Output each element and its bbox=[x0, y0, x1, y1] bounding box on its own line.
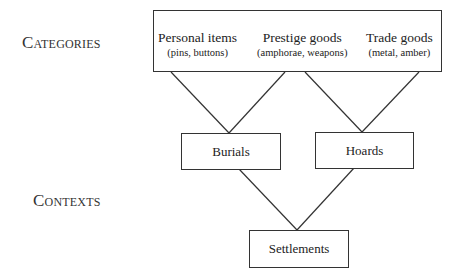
line-categories-to-burials-left bbox=[171, 72, 229, 133]
category-examples: (amphorae, weapons) bbox=[257, 46, 347, 60]
contexts-label: Contexts bbox=[33, 191, 101, 211]
line-categories-to-burials-right bbox=[229, 72, 285, 133]
categories-label: Categories bbox=[22, 33, 101, 53]
category-trade-goods: Trade goods (metal, amber) bbox=[366, 30, 433, 60]
category-title: Personal items bbox=[158, 30, 237, 46]
line-categories-to-hoards-right bbox=[362, 72, 419, 132]
hoards-label: Hoards bbox=[316, 143, 413, 159]
category-title: Trade goods bbox=[366, 30, 433, 46]
category-personal-items: Personal items (pins, buttons) bbox=[158, 30, 237, 60]
line-burials-to-settlements bbox=[239, 169, 297, 230]
category-title: Prestige goods bbox=[257, 30, 347, 46]
hoards-box: Hoards bbox=[315, 132, 414, 169]
settlements-box: Settlements bbox=[249, 230, 349, 268]
category-prestige-goods: Prestige goods (amphorae, weapons) bbox=[257, 30, 347, 60]
burials-box: Burials bbox=[181, 133, 281, 170]
category-examples: (pins, buttons) bbox=[158, 46, 237, 60]
burials-label: Burials bbox=[182, 144, 280, 160]
line-hoards-to-settlements bbox=[297, 168, 354, 230]
line-categories-to-hoards-left bbox=[305, 72, 362, 132]
category-examples: (metal, amber) bbox=[366, 46, 433, 60]
categories-box: Personal items (pins, buttons) Prestige … bbox=[153, 10, 442, 72]
settlements-label: Settlements bbox=[250, 241, 348, 257]
